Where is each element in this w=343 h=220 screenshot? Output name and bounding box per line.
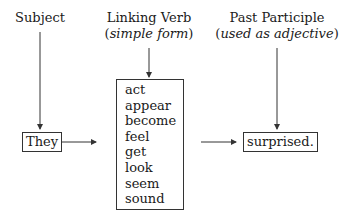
list-item: get	[125, 144, 175, 160]
list-item: seem	[125, 176, 175, 192]
list-item: act	[125, 82, 175, 98]
linking-verb-heading-text: Linking Verb	[99, 10, 199, 26]
linking-verb-list: act appear become feel get look seem sou…	[116, 79, 184, 210]
past-participle-subheading: (used as adjective)	[212, 26, 342, 42]
subject-heading-text: Subject	[15, 10, 65, 25]
list-item: feel	[125, 129, 175, 145]
linking-verb-heading: Linking Verb (simple form)	[99, 10, 199, 42]
list-item: become	[125, 113, 175, 129]
past-participle-subheading-text: used as adjective	[220, 26, 333, 41]
subject-box-text: They	[26, 134, 58, 149]
paren-close: )	[188, 26, 193, 41]
list-item: appear	[125, 98, 175, 114]
past-participle-heading-text: Past Participle	[212, 10, 342, 26]
linking-verb-subheading-text: simple form	[110, 26, 189, 41]
participle-box: surprised.	[243, 132, 318, 152]
past-participle-heading: Past Participle (used as adjective)	[212, 10, 342, 42]
list-item: sound	[125, 191, 175, 207]
list-item: look	[125, 160, 175, 176]
linking-verb-subheading: (simple form)	[99, 26, 199, 42]
subject-box: They	[22, 132, 62, 152]
participle-box-text: surprised.	[247, 134, 314, 149]
paren-close: )	[334, 26, 339, 41]
subject-heading: Subject	[10, 10, 70, 26]
